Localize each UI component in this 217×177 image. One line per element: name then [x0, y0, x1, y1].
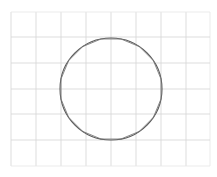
grid [11, 12, 210, 166]
diagram-canvas [0, 0, 217, 177]
